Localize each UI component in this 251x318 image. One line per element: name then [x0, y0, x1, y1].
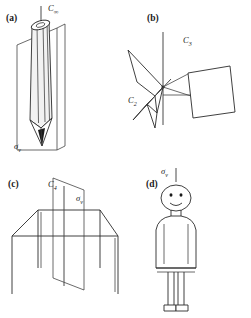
- sigma-v-plane-label-c: σv: [76, 194, 83, 205]
- panel-b-label: (b): [147, 14, 159, 24]
- panel-d-person: (d) σv: [128, 160, 251, 318]
- sigma-v-plane-label-d: σv: [161, 167, 168, 178]
- panel-b-drawing: [125, 0, 251, 160]
- person-eye-left: [170, 193, 173, 197]
- person-foot-left: [164, 305, 176, 311]
- panel-c-label: (c): [8, 180, 19, 190]
- propeller-blade-right: [188, 66, 235, 118]
- propeller-blade-upper-left: [128, 50, 163, 96]
- propeller-strut-upper: [163, 74, 188, 87]
- c3-axis-label: C3: [183, 36, 192, 47]
- symmetry-figure: (a) C∞ σv (b) C3: [0, 0, 251, 318]
- panel-c-table: (c) C4 σv: [0, 160, 130, 318]
- person-foot-right: [176, 305, 188, 311]
- person-body: [156, 216, 196, 268]
- c2-axis-label: C2: [128, 96, 137, 107]
- sigma-v-plane-label-a: σv: [14, 142, 21, 153]
- mirror-plane-a-edge2: [57, 24, 65, 146]
- table-top: [12, 210, 118, 236]
- c-infinity-axis-label: C∞: [48, 4, 58, 15]
- panel-a-drawing: [0, 0, 125, 160]
- panel-b-propeller: (b) C3 C2: [125, 0, 251, 160]
- c4-axis-label: C4: [48, 180, 57, 191]
- panel-c-drawing: [0, 160, 130, 318]
- panel-a-pencil: (a) C∞ σv: [0, 0, 125, 160]
- mirror-plane-a-edge: [57, 146, 65, 150]
- person-eye-right: [180, 193, 183, 197]
- panel-d-label: (d): [146, 180, 158, 190]
- person-head: [161, 185, 191, 211]
- panel-a-label: (a): [6, 14, 17, 24]
